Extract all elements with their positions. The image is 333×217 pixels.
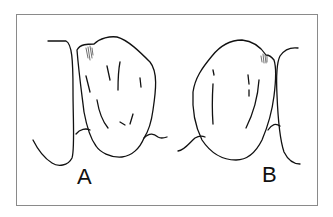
panel-label-a: A bbox=[77, 166, 92, 188]
tooth-a-drawing bbox=[33, 37, 167, 166]
teeth-illustration bbox=[0, 0, 333, 217]
panel-label-b: B bbox=[262, 164, 277, 186]
tooth-b-drawing bbox=[178, 40, 300, 164]
